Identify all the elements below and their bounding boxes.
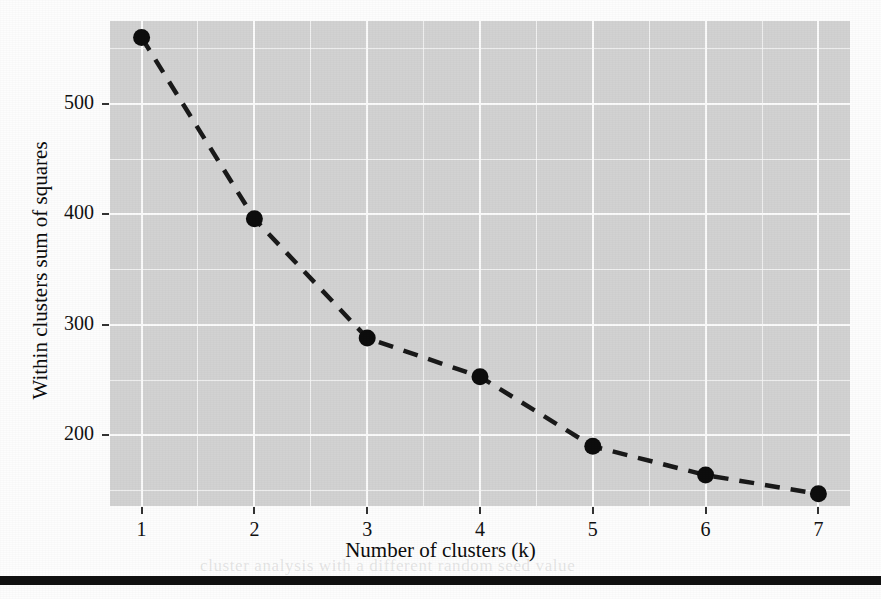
data-point — [810, 485, 827, 502]
data-point — [246, 210, 263, 227]
page-bottom-rule — [0, 576, 881, 585]
x-axis-tick-mark — [366, 507, 368, 514]
x-axis-tick-mark — [817, 507, 819, 514]
x-axis-tick-mark — [253, 507, 255, 514]
data-point — [133, 29, 150, 46]
x-axis-tick-mark — [141, 507, 143, 514]
x-axis-title: Number of clusters (k) — [0, 538, 881, 563]
y-axis-title: Within clusters sum of squares — [28, 111, 53, 431]
figure-page: the same as in the previous example. Thu… — [0, 0, 881, 599]
y-axis-tick-mark — [102, 434, 109, 436]
series-line-dashed — [142, 38, 819, 494]
x-axis-tick-mark — [705, 507, 707, 514]
y-axis-tick-mark — [102, 213, 109, 215]
elbow-plot: 500400300200 1234567 Within clusters sum… — [0, 0, 881, 575]
y-axis-tick-mark — [102, 103, 109, 105]
series-layer — [110, 21, 850, 506]
y-axis-tick-mark — [102, 324, 109, 326]
x-axis-tick-mark — [592, 507, 594, 514]
data-point — [584, 438, 601, 455]
x-axis-tick-mark — [479, 507, 481, 514]
data-point — [472, 368, 489, 385]
data-point — [359, 330, 376, 347]
data-point — [697, 467, 714, 484]
plot-area — [110, 21, 850, 506]
series-markers — [133, 29, 827, 502]
